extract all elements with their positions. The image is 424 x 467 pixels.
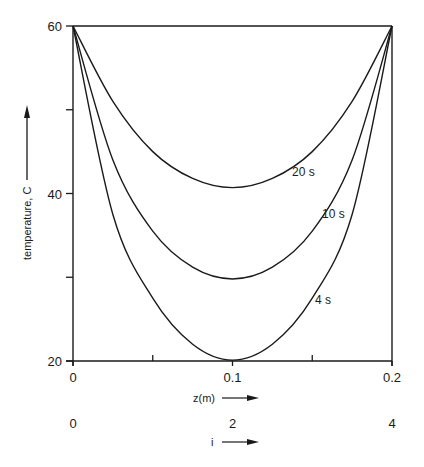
index-axis-arrow-icon [247, 439, 259, 445]
series-label: 4 s [315, 293, 331, 307]
axis-ticks [66, 26, 392, 366]
y-tick-label: 60 [48, 19, 62, 34]
x-axis-label: z(m) [193, 392, 215, 404]
x-axis-label-group: z(m) [193, 392, 259, 404]
y-axis-label: temperature, C [21, 187, 33, 260]
series-label: 20 s [292, 165, 315, 179]
curve-4s [73, 26, 392, 360]
y-tick-label: 40 [48, 187, 62, 202]
y-axis-label-group: temperature, C [21, 105, 33, 260]
x-tick-label: 0 [69, 370, 76, 385]
series-labels: 4 s10 s20 s [292, 165, 345, 307]
chart: 204060000.120.24 4 s10 s20 s temperature… [0, 0, 424, 467]
plot-frame [66, 26, 392, 366]
curve-10s [73, 26, 392, 279]
index-axis-label: i [211, 436, 213, 448]
x2-axis-label-group: i [211, 436, 259, 448]
x-tick-label: 0.2 [383, 370, 401, 385]
series-label: 10 s [322, 207, 345, 221]
index-tick-label: 4 [388, 416, 395, 431]
y-axis-arrow-icon [24, 105, 30, 118]
y-tick-label: 20 [48, 354, 62, 369]
index-tick-label: 0 [69, 416, 76, 431]
x-tick-label: 0.1 [223, 370, 241, 385]
curves [73, 26, 392, 360]
curve-20s [73, 26, 392, 188]
index-tick-label: 2 [229, 416, 236, 431]
x-axis-arrow-icon [247, 395, 259, 401]
